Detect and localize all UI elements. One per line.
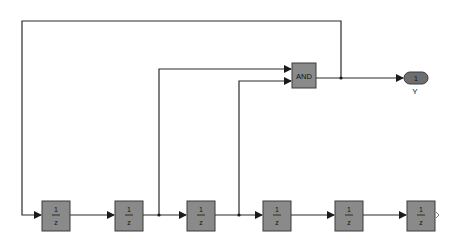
feedback-signal-line[interactable] xyxy=(22,21,341,215)
branch-point xyxy=(237,213,240,216)
delay-numerator: 1 xyxy=(275,206,279,213)
delay-numerator: 1 xyxy=(54,206,58,213)
branch-to-and-input-1[interactable] xyxy=(159,69,291,215)
delay-denominator: z xyxy=(347,219,351,226)
unconnected-output-port-icon xyxy=(436,212,439,218)
and-block-label: AND xyxy=(296,72,312,81)
branch-point xyxy=(339,76,342,79)
unit-delay-block-4[interactable]: 1 z xyxy=(263,201,291,231)
block-diagram-canvas: AND 1 Y 1 z 1 z 1 z 1 z 1 z 1 xyxy=(0,0,459,249)
delay-denominator: z xyxy=(54,219,58,226)
outport-y[interactable]: 1 Y xyxy=(404,72,428,96)
unit-delay-block-6[interactable]: 1 z xyxy=(407,201,439,231)
delay-numerator: 1 xyxy=(419,206,423,213)
branch-point xyxy=(157,213,160,216)
delay-denominator: z xyxy=(275,219,279,226)
delay-denominator: z xyxy=(419,219,423,226)
outport-number: 1 xyxy=(414,75,418,82)
branch-to-and-input-2[interactable] xyxy=(239,81,291,215)
unit-delay-block-5[interactable]: 1 z xyxy=(335,201,363,231)
unit-delay-block-2[interactable]: 1 z xyxy=(115,201,143,231)
delay-numerator: 1 xyxy=(347,206,351,213)
delay-numerator: 1 xyxy=(127,206,131,213)
unit-delay-block-1[interactable]: 1 z xyxy=(42,201,70,231)
and-logic-block[interactable]: AND xyxy=(292,63,316,88)
delay-denominator: z xyxy=(199,219,203,226)
unit-delay-block-3[interactable]: 1 z xyxy=(187,201,215,231)
delay-numerator: 1 xyxy=(199,206,203,213)
outport-name: Y xyxy=(412,87,418,96)
delay-denominator: z xyxy=(127,219,131,226)
